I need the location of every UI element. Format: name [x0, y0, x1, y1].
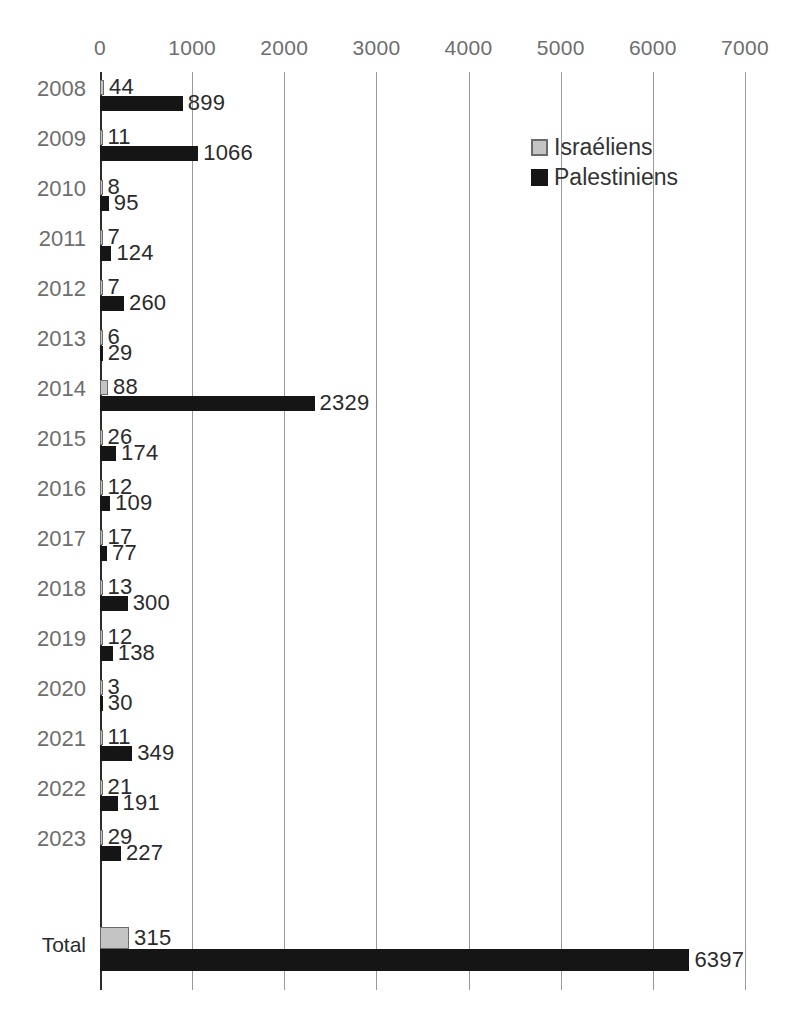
bar-israeli-total: 315 [100, 925, 171, 947]
bar-chart: 01000200030004000500060007000 2008448992… [0, 0, 802, 1015]
bar-row-2009: 2009111066 [0, 124, 802, 155]
row-label-2021: 2021 [0, 726, 86, 752]
bar-israeli-2018: 13 [100, 574, 132, 589]
bar-row-2010: 2010895 [0, 174, 802, 205]
legend-swatch-israeli-icon [531, 139, 548, 156]
bar-palestinian-2022: 191 [100, 790, 160, 805]
bar-segment-palestinian [100, 846, 121, 861]
bar-value-palestinian-total: 6397 [689, 947, 744, 973]
row-label-2020: 2020 [0, 676, 86, 702]
bar-value-palestinian-2020: 30 [103, 690, 133, 716]
bar-row-2011: 20117124 [0, 224, 802, 255]
bar-palestinian-2016: 109 [100, 490, 152, 505]
x-tick-label-5000: 5000 [537, 36, 585, 60]
bar-row-2016: 201612109 [0, 474, 802, 505]
bar-value-palestinian-2010: 95 [109, 190, 139, 216]
row-label-2022: 2022 [0, 776, 86, 802]
x-tick-label-6000: 6000 [629, 36, 677, 60]
bar-value-palestinian-2017: 77 [107, 540, 137, 566]
bar-value-palestinian-2008: 899 [183, 90, 225, 116]
bar-palestinian-total: 6397 [100, 947, 744, 969]
legend-item-palestinian[interactable]: Palestiniens [531, 162, 678, 192]
bar-value-palestinian-2015: 174 [116, 440, 158, 466]
bar-israeli-2010: 8 [100, 174, 120, 189]
bar-palestinian-2021: 349 [100, 740, 174, 755]
bar-row-2015: 201526174 [0, 424, 802, 455]
bar-segment-palestinian [100, 546, 107, 561]
bar-israeli-2013: 6 [100, 324, 120, 339]
bar-value-palestinian-2022: 191 [118, 790, 160, 816]
bar-value-palestinian-2009: 1066 [198, 140, 253, 166]
bar-value-palestinian-2021: 349 [132, 740, 174, 766]
bar-value-palestinian-2013: 29 [103, 340, 133, 366]
bar-palestinian-2008: 899 [100, 90, 225, 105]
bar-palestinian-2023: 227 [100, 840, 163, 855]
bar-israeli-2009: 11 [100, 124, 131, 139]
chart-legend: IsraéliensPalestiniens [531, 132, 678, 192]
bar-value-palestinian-2011: 124 [111, 240, 153, 266]
row-label-2012: 2012 [0, 276, 86, 302]
bar-israeli-2022: 21 [100, 774, 132, 789]
bar-segment-palestinian [100, 96, 183, 111]
bar-israeli-2015: 26 [100, 424, 132, 439]
bar-row-total: Total3156397 [0, 925, 802, 969]
bar-segment-palestinian [100, 146, 198, 161]
bar-segment-palestinian [100, 796, 118, 811]
bar-palestinian-2019: 138 [100, 640, 155, 655]
legend-swatch-palestinian-icon [531, 169, 548, 186]
bar-segment-palestinian [100, 949, 689, 971]
bar-palestinian-2020: 30 [100, 690, 133, 705]
row-label-2017: 2017 [0, 526, 86, 552]
bar-segment-palestinian [100, 246, 111, 261]
bar-segment-palestinian [100, 596, 128, 611]
bar-row-2019: 201912138 [0, 624, 802, 655]
bar-row-2018: 201813300 [0, 574, 802, 605]
bar-israeli-2017: 17 [100, 524, 132, 539]
bar-palestinian-2015: 174 [100, 440, 158, 455]
bar-palestinian-2010: 95 [100, 190, 139, 205]
bar-segment-palestinian [100, 196, 109, 211]
bar-palestinian-2009: 1066 [100, 140, 253, 155]
x-tick-label-0: 0 [94, 36, 106, 60]
row-label-2014: 2014 [0, 376, 86, 402]
legend-item-israeli[interactable]: Israéliens [531, 132, 678, 162]
bar-israeli-2020: 3 [100, 674, 120, 689]
bar-row-2014: 2014882329 [0, 374, 802, 405]
bar-value-palestinian-2016: 109 [110, 490, 152, 516]
bar-value-palestinian-2023: 227 [121, 840, 163, 866]
bar-israeli-2023: 29 [100, 824, 133, 839]
bar-segment-palestinian [100, 496, 110, 511]
legend-label: Palestiniens [554, 164, 678, 191]
bar-row-2021: 202111349 [0, 724, 802, 755]
row-label-2009: 2009 [0, 126, 86, 152]
row-label-2015: 2015 [0, 426, 86, 452]
row-label-2013: 2013 [0, 326, 86, 352]
row-label-2016: 2016 [0, 476, 86, 502]
bar-segment-palestinian [100, 646, 113, 661]
bar-palestinian-2017: 77 [100, 540, 137, 555]
bar-israeli-2016: 12 [100, 474, 132, 489]
bar-row-2020: 2020330 [0, 674, 802, 705]
bar-segment-palestinian [100, 296, 124, 311]
bar-israeli-2012: 7 [100, 274, 120, 289]
row-label-total: Total [0, 933, 86, 957]
x-axis-tick-labels: 01000200030004000500060007000 [0, 36, 802, 62]
legend-label: Israéliens [554, 134, 652, 161]
bar-israeli-2021: 11 [100, 724, 131, 739]
bar-palestinian-2011: 124 [100, 240, 154, 255]
x-tick-label-4000: 4000 [445, 36, 493, 60]
bar-row-2023: 202329227 [0, 824, 802, 855]
bar-israeli-2011: 7 [100, 224, 120, 239]
bar-segment-israeli [100, 927, 129, 949]
x-tick-label-7000: 7000 [721, 36, 769, 60]
row-label-2011: 2011 [0, 226, 86, 252]
bar-row-2017: 20171777 [0, 524, 802, 555]
row-label-2018: 2018 [0, 576, 86, 602]
bar-row-2012: 20127260 [0, 274, 802, 305]
bar-segment-palestinian [100, 446, 116, 461]
bar-palestinian-2014: 2329 [100, 390, 369, 405]
bar-value-palestinian-2014: 2329 [315, 390, 370, 416]
x-tick-label-3000: 3000 [352, 36, 400, 60]
bar-value-palestinian-2019: 138 [113, 640, 155, 666]
bar-segment-palestinian [100, 746, 132, 761]
